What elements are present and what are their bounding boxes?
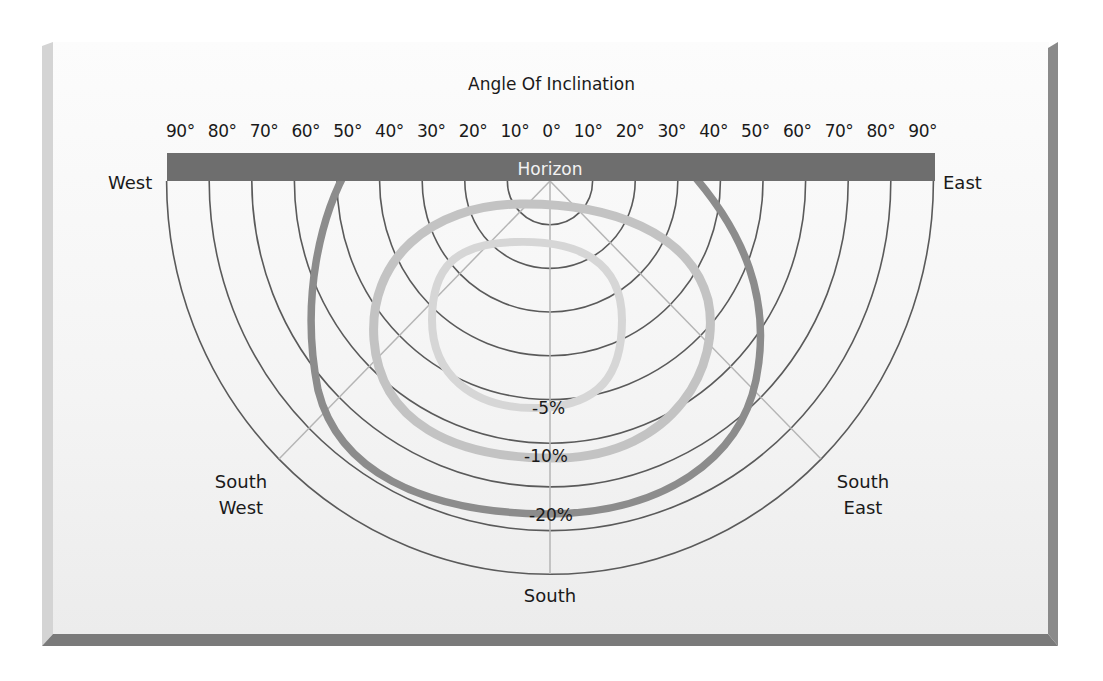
chart-title: Angle Of Inclination bbox=[0, 74, 1103, 94]
angle-tick-11: 20° bbox=[616, 121, 645, 141]
angle-tick-6: 30° bbox=[417, 121, 446, 141]
label-minus-5: -5% bbox=[532, 398, 565, 418]
label-west: West bbox=[108, 170, 152, 196]
angle-tick-12: 30° bbox=[657, 121, 686, 141]
label-minus-10: -10% bbox=[524, 446, 568, 466]
angle-tick-1: 80° bbox=[208, 121, 237, 141]
angle-tick-13: 40° bbox=[699, 121, 728, 141]
angle-tick-5: 40° bbox=[375, 121, 404, 141]
angle-tick-10: 10° bbox=[574, 121, 603, 141]
label-south-east-line2: East bbox=[825, 495, 901, 521]
label-south-west-line1: South bbox=[203, 469, 279, 495]
horizon-label: Horizon bbox=[518, 159, 583, 179]
angle-tick-17: 80° bbox=[867, 121, 896, 141]
angle-tick-16: 70° bbox=[825, 121, 854, 141]
angle-tick-7: 20° bbox=[459, 121, 488, 141]
label-south-west: South West bbox=[203, 469, 279, 521]
angle-tick-labels: 90°80°70°60°50°40°30°20°10°0°10°20°30°40… bbox=[166, 121, 937, 141]
angle-tick-4: 50° bbox=[333, 121, 362, 141]
angle-tick-15: 60° bbox=[783, 121, 812, 141]
angle-tick-8: 10° bbox=[501, 121, 530, 141]
angle-tick-0: 90° bbox=[166, 121, 195, 141]
angle-tick-2: 70° bbox=[250, 121, 279, 141]
radial-line-southeast bbox=[550, 181, 821, 459]
label-south-east-line1: South bbox=[825, 469, 901, 495]
polar-chart: Horizon bbox=[0, 0, 1103, 681]
label-south-west-line2: West bbox=[203, 495, 279, 521]
angle-tick-18: 90° bbox=[908, 121, 937, 141]
label-south: South bbox=[510, 583, 590, 609]
curve-minus-5 bbox=[432, 242, 622, 408]
angle-tick-9: 0° bbox=[542, 121, 560, 141]
angle-tick-3: 60° bbox=[291, 121, 320, 141]
label-south-east: South East bbox=[825, 469, 901, 521]
label-east: East bbox=[943, 170, 982, 196]
label-minus-20: -20% bbox=[529, 505, 573, 525]
angle-tick-14: 50° bbox=[741, 121, 770, 141]
